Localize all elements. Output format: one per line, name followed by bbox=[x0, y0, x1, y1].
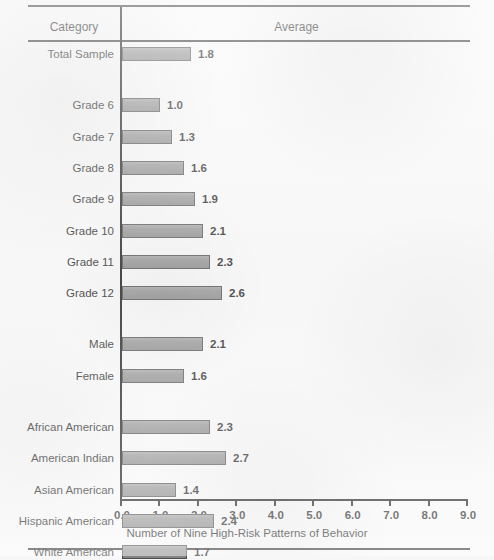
bar bbox=[122, 130, 172, 144]
bar-row: American Indian2.7 bbox=[0, 450, 494, 466]
bar-row-category-label: Grade 6 bbox=[0, 97, 114, 113]
bar-row-category-label: Total Sample bbox=[0, 46, 114, 62]
bar-row: Female1.6 bbox=[0, 368, 494, 384]
bar-row: Grade 71.3 bbox=[0, 129, 494, 145]
bar-value-label: 1.8 bbox=[198, 46, 214, 62]
column-header-category: Category bbox=[28, 20, 120, 35]
bar-row-category-label: American Indian bbox=[0, 450, 114, 466]
bar bbox=[122, 47, 191, 61]
bar bbox=[122, 98, 160, 112]
bar bbox=[122, 451, 226, 465]
x-axis-tick bbox=[466, 501, 468, 506]
bar bbox=[122, 545, 187, 559]
bar-value-label: 2.7 bbox=[233, 450, 249, 466]
x-axis-title: Number of Nine High-Risk Patterns of Beh… bbox=[0, 526, 494, 540]
bar bbox=[122, 420, 210, 434]
x-axis-tick bbox=[197, 501, 199, 506]
bar-row-category-label: Grade 12 bbox=[0, 285, 114, 301]
bar-row: Grade 102.1 bbox=[0, 223, 494, 239]
x-axis-tick bbox=[158, 501, 160, 506]
bar-value-label: 1.9 bbox=[202, 191, 218, 207]
bar-value-label: 2.1 bbox=[210, 223, 226, 239]
bar-value-label: 1.4 bbox=[183, 482, 199, 498]
bar-row-category-label: Grade 9 bbox=[0, 191, 114, 207]
bar-row: Grade 112.3 bbox=[0, 254, 494, 270]
bar-row-category-label: Grade 10 bbox=[0, 223, 114, 239]
bar-row-category-label: Female bbox=[0, 368, 114, 384]
bar bbox=[122, 286, 222, 300]
bar-row-category-label: Grade 8 bbox=[0, 160, 114, 176]
bar-row: African American2.3 bbox=[0, 419, 494, 435]
bar-value-label: 2.3 bbox=[217, 419, 233, 435]
bar-row: Male2.1 bbox=[0, 336, 494, 352]
x-axis-tick bbox=[274, 501, 276, 506]
table-header-rule bbox=[28, 40, 470, 42]
bar-value-label: 1.7 bbox=[194, 544, 210, 560]
x-axis-tick bbox=[312, 501, 314, 506]
bar-row: Asian American1.4 bbox=[0, 482, 494, 498]
bar bbox=[122, 369, 184, 383]
bar-row-category-label: African American bbox=[0, 419, 114, 435]
bar bbox=[122, 224, 203, 238]
bar-value-label: 1.3 bbox=[179, 129, 195, 145]
bar-row: Grade 61.0 bbox=[0, 97, 494, 113]
bar-value-label: 1.0 bbox=[167, 97, 183, 113]
bar bbox=[122, 483, 176, 497]
x-axis-tick bbox=[389, 501, 391, 506]
bar-value-label: 2.1 bbox=[210, 336, 226, 352]
bar-value-label: 2.6 bbox=[229, 285, 245, 301]
bar bbox=[122, 192, 195, 206]
table-top-rule bbox=[28, 5, 470, 7]
bar-row-category-label: White American bbox=[0, 544, 114, 560]
bar-row-category-label: Grade 11 bbox=[0, 254, 114, 270]
bar-row-category-label: Asian American bbox=[0, 482, 114, 498]
bar-value-label: 1.6 bbox=[191, 368, 207, 384]
bar bbox=[122, 255, 210, 269]
bar-row: Grade 91.9 bbox=[0, 191, 494, 207]
column-header-average: Average bbox=[123, 20, 470, 35]
x-axis-tick bbox=[428, 501, 430, 506]
bar-row: Grade 81.6 bbox=[0, 160, 494, 176]
x-axis-line bbox=[120, 499, 468, 501]
bar-value-label: 1.6 bbox=[191, 160, 207, 176]
bar bbox=[122, 337, 203, 351]
bar-row: White American1.7 bbox=[0, 544, 494, 560]
bar bbox=[122, 161, 184, 175]
bar-row: Total Sample1.8 bbox=[0, 46, 494, 62]
bar-value-label: 2.3 bbox=[217, 254, 233, 270]
x-axis-tick bbox=[120, 501, 122, 506]
bar-row-category-label: Male bbox=[0, 336, 114, 352]
bar-row-category-label: Grade 7 bbox=[0, 129, 114, 145]
x-axis-tick bbox=[351, 501, 353, 506]
bar-row: Grade 122.6 bbox=[0, 285, 494, 301]
x-axis-tick bbox=[235, 501, 237, 506]
